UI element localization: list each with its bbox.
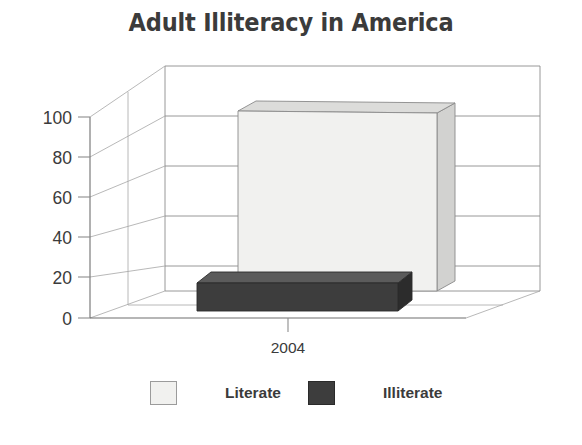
y-tick-label-0: 0 [62,309,72,329]
plot-left-wall [90,66,165,318]
legend-swatch-illiterate [308,381,335,405]
chart-container: Adult Illiteracy in America [0,0,582,445]
bar-illiterate-2004 [197,272,412,311]
bar-literate-2004 [238,101,455,291]
x-category-label-2004: 2004 [271,339,306,356]
bar-illiterate-front-face [197,283,398,311]
bar-literate-side-face [437,103,455,291]
y-tick-label-20: 20 [53,268,73,288]
y-axis-labels: 100 80 60 40 20 0 [43,108,72,329]
y-tick-label-40: 40 [53,228,73,248]
legend-label-illiterate: Illiterate [383,384,442,402]
legend-label-literate: Literate [225,384,281,402]
y-tick-label-100: 100 [43,108,72,128]
chart-plot-svg: 100 80 60 40 20 0 2004 [0,0,582,445]
legend-swatch-literate [150,381,177,405]
bar-literate-front-face [238,111,437,291]
x-axis-labels: 2004 [271,318,306,356]
y-axis-ticks [78,117,90,318]
bar-illiterate-top-face [197,272,412,283]
y-tick-label-80: 80 [53,148,73,168]
y-tick-label-60: 60 [53,188,73,208]
